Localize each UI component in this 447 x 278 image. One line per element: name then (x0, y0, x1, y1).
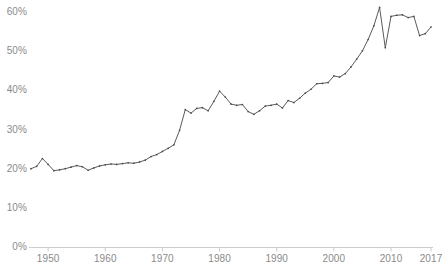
y-axis-tick-label: 30% (7, 124, 27, 135)
data-point (407, 17, 409, 19)
data-point (184, 109, 186, 111)
data-point (230, 103, 232, 105)
data-point (430, 26, 432, 28)
data-point (122, 163, 124, 165)
data-point (144, 159, 146, 161)
data-point (99, 165, 101, 167)
data-point (282, 107, 284, 109)
y-axis-tick-label: 40% (7, 84, 27, 95)
data-point (344, 73, 346, 75)
y-axis-tick-label: 20% (7, 163, 27, 174)
axis-group (29, 248, 433, 252)
data-point (59, 169, 61, 171)
x-axis-tick-label: 2010 (374, 253, 408, 264)
data-point (116, 164, 118, 166)
data-point (390, 16, 392, 18)
data-point (419, 35, 421, 37)
data-point (82, 166, 84, 168)
data-point (93, 167, 95, 169)
data-point (162, 151, 164, 153)
data-point (70, 166, 72, 168)
data-point (224, 96, 226, 98)
data-point (276, 103, 278, 105)
data-point (259, 110, 261, 112)
data-point (327, 82, 329, 84)
x-axis-tick-label: 1980 (203, 253, 237, 264)
data-point (379, 7, 381, 9)
data-point (219, 90, 221, 92)
x-axis-tick-label: 2000 (317, 253, 351, 264)
data-point (356, 58, 358, 60)
data-point (173, 144, 175, 146)
data-point (139, 161, 141, 163)
data-point (373, 25, 375, 27)
x-axis-tick-marks (48, 248, 431, 252)
data-point (253, 113, 255, 115)
data-point (133, 162, 135, 164)
data-point (179, 129, 181, 131)
data-point (47, 164, 49, 166)
data-point (310, 88, 312, 90)
data-point (413, 16, 415, 18)
data-point (333, 75, 335, 77)
data-point (76, 165, 78, 167)
data-point (287, 100, 289, 102)
data-point (104, 164, 106, 166)
data-point (264, 105, 266, 107)
data-point (384, 47, 386, 49)
data-point (322, 83, 324, 85)
data-point (36, 166, 38, 168)
data-point (396, 14, 398, 16)
data-point (213, 101, 215, 103)
data-point (402, 14, 404, 16)
data-point (167, 147, 169, 149)
y-axis-tick-label: 50% (7, 45, 27, 56)
data-series-line (31, 7, 431, 170)
data-point (367, 39, 369, 41)
data-point (190, 112, 192, 114)
data-point (127, 162, 129, 164)
data-point (53, 170, 55, 172)
data-point (207, 110, 209, 112)
x-axis-tick-label: 1970 (145, 253, 179, 264)
data-point (150, 156, 152, 158)
x-axis-tick-label: 1960 (88, 253, 122, 264)
data-point (202, 107, 204, 109)
x-axis-tick-label: 1950 (31, 253, 65, 264)
data-point (316, 83, 318, 85)
y-axis-tick-label: 0% (12, 241, 27, 252)
data-point (293, 102, 295, 104)
data-point (350, 66, 352, 68)
data-point (196, 108, 198, 110)
data-point (339, 76, 341, 78)
x-axis-tick-label: 1990 (260, 253, 294, 264)
x-axis-tick-label: 2017 (414, 253, 447, 264)
data-point (110, 163, 112, 165)
y-axis-tick-label: 10% (7, 202, 27, 213)
data-point (270, 104, 272, 106)
data-point (299, 97, 301, 99)
data-point (87, 169, 89, 171)
data-point (304, 92, 306, 94)
data-point (247, 111, 249, 113)
data-point (30, 168, 32, 170)
data-point (156, 154, 158, 156)
data-point (362, 50, 364, 52)
data-point (242, 104, 244, 106)
data-point (64, 168, 66, 170)
data-point (236, 104, 238, 106)
data-point (424, 33, 426, 35)
y-axis-tick-label: 60% (7, 6, 27, 17)
data-point (42, 158, 44, 160)
